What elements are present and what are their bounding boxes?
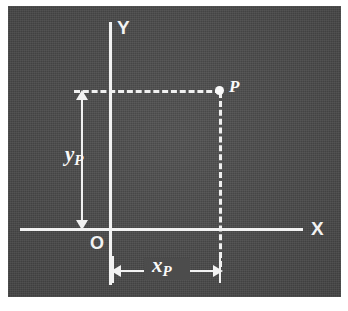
point-p-marker xyxy=(215,86,224,95)
horizontal-projection-dashed-line xyxy=(74,90,221,93)
arrow-right-icon xyxy=(213,265,223,277)
x-axis-line xyxy=(20,228,303,231)
y-axis-label: Y xyxy=(117,18,130,37)
origin-label: O xyxy=(90,234,105,252)
x-axis-label: X xyxy=(311,219,324,238)
y-axis-line xyxy=(109,22,112,285)
xp-subscript: P xyxy=(163,263,172,279)
arrow-down-icon xyxy=(76,220,88,230)
coordinate-diagram-figure: X Y O P yP xP xyxy=(0,0,348,311)
yp-subscript: P xyxy=(74,152,83,168)
xp-symbol: x xyxy=(152,253,163,277)
diagram-panel: X Y O P yP xP xyxy=(8,6,341,297)
panel-vignette xyxy=(8,6,341,297)
panel-halftone-texture xyxy=(8,6,341,297)
vertical-projection-dashed-line xyxy=(219,92,222,267)
point-p-label: P xyxy=(229,78,239,95)
yp-dimension-label: yP xyxy=(65,144,84,168)
yp-symbol: y xyxy=(65,142,74,166)
xp-dimension-label: xP xyxy=(148,255,176,279)
